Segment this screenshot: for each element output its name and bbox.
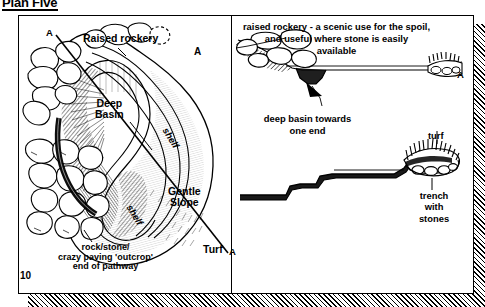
plan-section-mark-top: A — [46, 28, 53, 38]
crazy-paving-stones — [25, 139, 109, 239]
label-trench-with-stones: trench with stones — [408, 190, 460, 224]
upper-section-basin-dip-fill — [296, 68, 326, 84]
caption-deep-basin: deep basin towards one end — [245, 113, 370, 137]
caption-raised-rockery: raised rockery - a scenic use for the sp… — [239, 21, 434, 56]
upper-section-mark-right: A — [457, 70, 464, 80]
page-folio: 10 — [20, 270, 31, 281]
plan-section-mark-bottom: A — [229, 247, 236, 257]
label-turf-section: turf — [428, 131, 444, 141]
label-rock-outcrop: rock/stone/ crazy paving 'outcrop' end o… — [58, 243, 153, 272]
basin-vertical-hatch — [100, 60, 136, 98]
lower-section-turf-bank — [404, 139, 460, 176]
lower-section-profile — [240, 150, 420, 195]
upper-section-mark-left: A — [194, 47, 201, 58]
label-raised-rockery: Raised rockery — [83, 33, 158, 44]
label-gentle-slope: Gentle Slope — [168, 186, 201, 209]
label-turf-plan: Turf — [203, 244, 223, 255]
lower-section-water-mass — [240, 150, 422, 200]
scanned-page: Plan Five — [0, 0, 485, 307]
label-deep-basin: Deep Basin — [95, 98, 124, 121]
plan-view-group — [23, 23, 228, 265]
